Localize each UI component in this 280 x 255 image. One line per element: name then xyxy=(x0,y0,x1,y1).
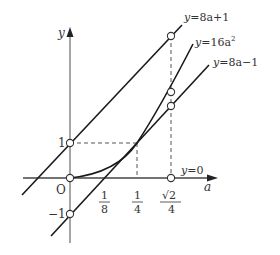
svg-text:4: 4 xyxy=(168,203,175,216)
label-y-0: y=0 xyxy=(180,164,203,177)
svg-text:1: 1 xyxy=(101,189,108,202)
y-axis-label: y xyxy=(57,26,65,40)
label-y-8a-plus-1: y=8a+1 xyxy=(183,11,229,24)
marked-points xyxy=(66,32,174,217)
x-tick-sqrt2-4: √2 4 xyxy=(160,189,181,216)
svg-text:1: 1 xyxy=(134,189,141,202)
x-axis-label: a xyxy=(204,180,211,194)
y-tick-minus-1: −1 xyxy=(48,207,66,221)
svg-text:8: 8 xyxy=(101,203,108,216)
svg-text:4: 4 xyxy=(134,203,141,216)
label-y-16a2: y=16a2 xyxy=(194,35,235,49)
x-tick-1-4: 1 4 xyxy=(132,189,143,216)
guide-lines xyxy=(70,36,171,178)
function-graph-diagram: y a O 1 −1 1 8 1 4 √2 4 y=8a+1 y=16a2 y=… xyxy=(0,0,280,255)
label-y-8a-minus-1: y=8a−1 xyxy=(212,56,258,69)
y-tick-1: 1 xyxy=(58,136,66,150)
svg-text:√2: √2 xyxy=(162,189,176,202)
origin-label: O xyxy=(56,183,66,197)
x-tick-1-8: 1 8 xyxy=(99,189,110,216)
line-y-8a-minus-1 xyxy=(51,65,209,236)
y-axis-arrow-icon xyxy=(67,27,74,37)
parabola-y-16a2 xyxy=(70,44,193,178)
